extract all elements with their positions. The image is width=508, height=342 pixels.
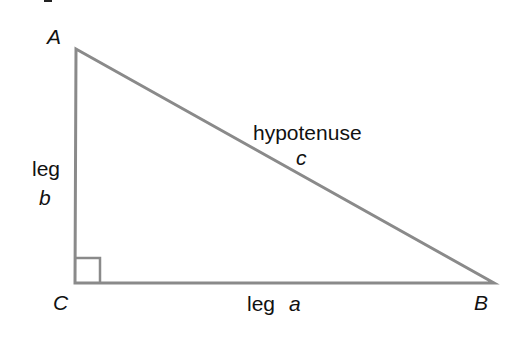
right-angle-marker [75,258,100,283]
leg-a-symbol: a [289,293,301,314]
hypotenuse-symbol: c [296,147,307,168]
leg-b-label: leg [32,158,60,179]
right-triangle [75,49,494,283]
leg-a-label: leg [247,293,275,314]
vertex-label-c: C [53,292,68,313]
hypotenuse-label: hypotenuse [253,122,362,143]
vertex-label-a: A [47,26,61,47]
vertex-label-b: B [474,292,488,313]
triangle-figure [0,0,508,342]
leg-b-symbol: b [39,187,51,208]
